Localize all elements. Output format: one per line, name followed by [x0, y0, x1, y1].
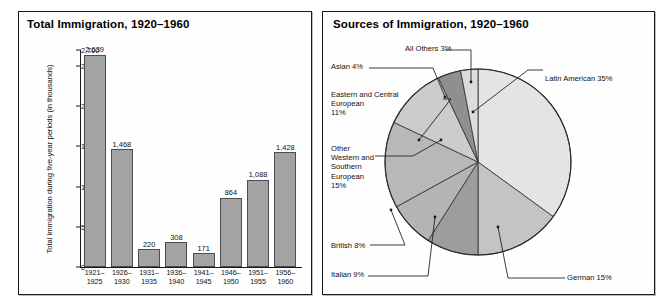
bar: 308 — [165, 242, 187, 267]
bar-value-label: 308 — [170, 233, 182, 242]
leader-british-dot — [390, 209, 393, 212]
leader-asian-dot — [444, 96, 447, 99]
bar: 220 — [138, 249, 160, 267]
pie-label-british: British 8% — [331, 241, 365, 250]
bar-value-label: 1,468 — [113, 140, 132, 149]
bar: 1,428 — [274, 152, 296, 267]
bar-value-label: 2,639 — [85, 45, 104, 54]
x-tick-label: 1936– 1940 — [163, 269, 190, 286]
bar: 864 — [220, 198, 242, 267]
leader-eastern-central-dot — [418, 139, 421, 142]
x-tick-label: 1951– 1955 — [245, 269, 272, 286]
bar: 1,468 — [111, 149, 133, 267]
x-tick-label: 1956– 1960 — [272, 269, 299, 286]
leader-german-dot — [497, 226, 500, 229]
bar: 2,639 — [84, 55, 106, 267]
bar: 1,088 — [247, 180, 269, 267]
pie-label-all-others: All Others 3% — [405, 44, 451, 53]
pie-label-other-western-southern-european: Other Western and Southern European 15% — [331, 144, 374, 190]
x-tick-label: 1946– 1950 — [217, 269, 244, 286]
pie-label-eastern-central-european: Eastern and Central European 11% — [331, 90, 399, 118]
x-tick-label: 1926– 1930 — [108, 269, 135, 286]
pie-label-asian: Asian 4% — [331, 62, 363, 71]
bar-chart-title: Total Immigration, 1920–1960 — [27, 18, 189, 30]
pie-label-latin-american: Latin American 35% — [545, 74, 613, 83]
x-tick-label: 1931– 1935 — [136, 269, 163, 286]
pie-label-italian: Italian 9% — [331, 270, 364, 279]
x-tick-label: 1921– 1925 — [81, 269, 108, 286]
bar-value-label: 220 — [143, 240, 155, 249]
pie-label-german: German 15% — [567, 273, 612, 282]
bar-chart-y-axis-title: Total immigration during five-year perio… — [43, 50, 55, 268]
leader-latin-american-dot — [472, 111, 475, 114]
bar-chart-plot-area: 2,6391,4682203081718641,0881,428 — [81, 50, 299, 267]
leader-other-western-dot — [440, 139, 443, 142]
bar-value-label: 1,088 — [249, 170, 268, 179]
bar: 171 — [193, 253, 215, 267]
bar-value-label: 864 — [225, 188, 237, 197]
leader-british — [370, 210, 405, 245]
x-tick-label: 1941– 1945 — [190, 269, 217, 286]
bar-value-label: 171 — [197, 244, 209, 253]
bar-chart-panel: Total Immigration, 1920–1960 Total immig… — [18, 11, 312, 295]
leader-all-others-dot — [470, 81, 473, 84]
leader-italian-dot — [434, 216, 437, 219]
pie-chart-panel: Sources of Immigration, 1920–1960 Latin … — [322, 11, 655, 295]
y-axis-title-text: Total immigration during five-year perio… — [45, 64, 54, 253]
bar-value-label: 1,428 — [276, 143, 295, 152]
